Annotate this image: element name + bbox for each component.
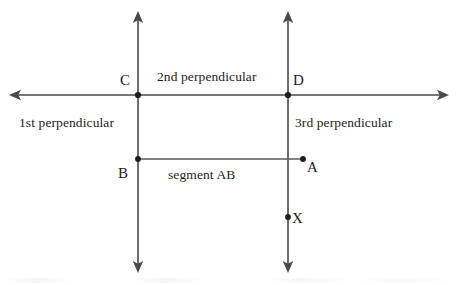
first-perpendicular-line — [133, 11, 143, 273]
geometry-canvas — [0, 0, 456, 285]
point-a-dot — [300, 156, 306, 162]
segment-ab-label: segment AB — [168, 168, 235, 182]
point-x-dot — [285, 214, 291, 220]
point-d-dot — [285, 92, 291, 98]
second-perpendicular-label: 2nd perpendicular — [157, 70, 257, 84]
point-label-c: C — [120, 73, 130, 88]
scan-artifact — [0, 278, 456, 283]
point-label-b: B — [118, 166, 128, 181]
geometry-diagram: C D B A X 2nd perpendicular 1st perpendi… — [0, 0, 456, 285]
point-c-dot — [135, 92, 141, 98]
point-b-dot — [135, 156, 141, 162]
point-label-d: D — [293, 73, 304, 88]
third-perpendicular-label: 3rd perpendicular — [295, 116, 392, 130]
second-perpendicular-line — [9, 90, 449, 100]
point-label-a: A — [307, 160, 318, 175]
point-label-x: X — [292, 211, 303, 226]
first-perpendicular-label: 1st perpendicular — [19, 116, 114, 130]
third-perpendicular-line — [283, 11, 293, 273]
